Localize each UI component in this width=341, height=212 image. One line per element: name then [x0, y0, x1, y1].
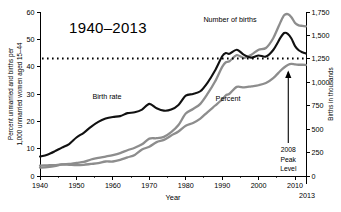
x-axis-ticklabel: 1940: [32, 181, 48, 190]
y-axis-right-title: Births in thousands: [327, 67, 334, 121]
x-axis-ticklabel: 1970: [141, 181, 157, 190]
y-axis-left-title-line2: 1,000 unmarried women aged 15–44: [16, 42, 24, 145]
y-axis-left-title-line1: Percent unmarried and births per: [7, 48, 15, 140]
chart-figure: 010203040506002505007501,0001,2501,5001,…: [0, 0, 341, 212]
series-line-birth-rate: [40, 33, 306, 157]
chart-title: 1940–2013: [69, 19, 147, 36]
peak-arrow-head: [285, 71, 291, 79]
y-axis-right-ticklabel: 1,500: [312, 31, 330, 40]
y-axis-right-ticklabel: 500: [312, 125, 324, 134]
x-axis-ticklabel: 1960: [105, 181, 121, 190]
peak-annotation-line: Peak: [281, 156, 297, 163]
y-axis-left-ticklabel: 30: [27, 90, 35, 99]
x-axis-ticklabel: 1990: [214, 181, 230, 190]
x-axis-ticklabel: 2010: [287, 181, 303, 190]
y-axis-right-ticklabel: 250: [312, 148, 324, 157]
y-axis-right-ticklabel: 1,750: [312, 8, 330, 17]
y-axis-left-ticklabel: 20: [27, 117, 35, 126]
y-axis-left-ticklabel: 0: [31, 172, 35, 181]
y-axis-right-ticklabel: 750: [312, 101, 324, 110]
series-label-birth-rate: Birth rate: [92, 92, 121, 101]
y-axis-right-ticklabel: 0: [312, 172, 316, 181]
y-axis-left-ticklabel: 40: [27, 62, 35, 71]
peak-annotation-line: Level: [280, 165, 297, 172]
series-label-number-of-births: Number of births: [203, 15, 257, 24]
y-axis-right-ticklabel: 1,250: [312, 54, 330, 63]
nonmarital-childbearing-chart: 010203040506002505007501,0001,2501,5001,…: [0, 0, 341, 212]
series-label-percent: Percent: [216, 94, 241, 103]
x-axis-ticklabel: 1980: [178, 181, 194, 190]
x-axis-ticklabel: 1950: [68, 181, 84, 190]
y-axis-left-ticklabel: 60: [27, 8, 35, 17]
y-axis-left-ticklabel: 50: [27, 35, 35, 44]
peak-annotation-line: 2008: [281, 146, 296, 153]
y-axis-left-ticklabel: 10: [27, 144, 35, 153]
series-line-number-of-births: [40, 14, 306, 168]
series-line-percent: [40, 64, 306, 166]
x-axis-ticklabel: 2000: [251, 181, 267, 190]
x-axis-end-label: 2013: [299, 191, 315, 200]
x-axis-title: Year: [166, 193, 181, 202]
